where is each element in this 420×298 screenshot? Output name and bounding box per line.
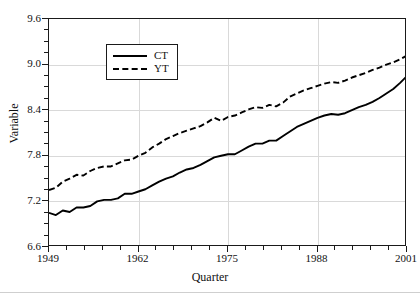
series-line-yt xyxy=(49,55,405,190)
x-minor-tick xyxy=(263,246,264,250)
x-minor-tick xyxy=(66,246,67,250)
legend-item-ct: CT xyxy=(113,49,169,62)
y-tick-label: 9.0 xyxy=(1,58,41,69)
legend-label-ct: CT xyxy=(154,50,168,61)
y-tick-label: 8.4 xyxy=(1,104,41,115)
x-minor-tick xyxy=(155,246,156,250)
legend-line-dashed-icon xyxy=(113,64,147,74)
x-tick-label: 1949 xyxy=(28,253,68,264)
y-tick-label: 7.8 xyxy=(1,149,41,160)
x-minor-tick xyxy=(245,246,246,250)
footer-divider xyxy=(0,292,420,293)
x-tick-label: 2001 xyxy=(386,253,420,264)
series-lines xyxy=(49,19,405,245)
x-minor-tick xyxy=(191,246,192,250)
chart-figure: Variable 6.67.27.88.49.09.6 194919621975… xyxy=(0,0,420,298)
y-tick-label: 9.6 xyxy=(1,13,41,24)
x-minor-tick xyxy=(299,246,300,250)
x-minor-tick xyxy=(334,246,335,250)
legend: CT YT xyxy=(106,44,178,80)
x-minor-tick xyxy=(352,246,353,250)
legend-item-yt: YT xyxy=(113,62,169,75)
x-minor-tick xyxy=(388,246,389,250)
legend-line-solid-icon xyxy=(113,51,147,61)
series-line-ct xyxy=(49,76,405,215)
y-tick-label: 6.6 xyxy=(1,241,41,252)
x-minor-tick xyxy=(120,246,121,250)
plot-area: CT YT xyxy=(48,18,406,246)
x-minor-tick xyxy=(102,246,103,250)
x-minor-tick xyxy=(84,246,85,250)
y-tick-label: 7.2 xyxy=(1,195,41,206)
x-minor-tick xyxy=(370,246,371,250)
x-tick-label: 1988 xyxy=(297,253,337,264)
x-tick-label: 1962 xyxy=(118,253,158,264)
x-minor-tick xyxy=(281,246,282,250)
x-minor-tick xyxy=(173,246,174,250)
plot-inner xyxy=(49,19,405,245)
x-tick-label: 1975 xyxy=(207,253,247,264)
legend-label-yt: YT xyxy=(154,63,169,74)
x-axis-title: Quarter xyxy=(0,270,420,285)
x-minor-tick xyxy=(209,246,210,250)
